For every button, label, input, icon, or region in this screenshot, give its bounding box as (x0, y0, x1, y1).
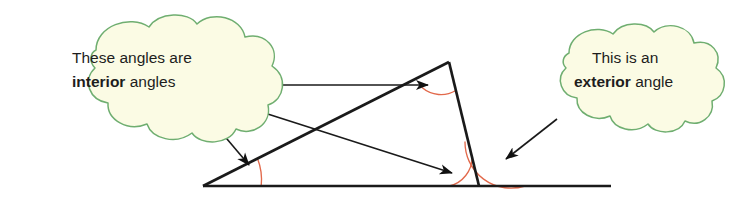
interior-angles-callout[interactable]: These angles are interior angles (72, 15, 283, 142)
leader-to-exterior-angle (506, 119, 557, 159)
interior-callout-line2: interior angles (72, 73, 176, 90)
leader-to-right-interior-angle (249, 108, 452, 173)
diagram-canvas: These angles are interior angles This is… (0, 0, 730, 204)
interior-callout-line2-rest: angles (125, 73, 175, 90)
triangle-side-right (449, 62, 479, 186)
exterior-callout-line2: exterior angle (574, 73, 673, 90)
interior-callout-line1: These angles are (72, 49, 192, 66)
interior-angle-arc-left (258, 159, 262, 186)
interior-angle-arc-apex (422, 88, 456, 95)
exterior-callout-keyword: exterior (574, 73, 631, 90)
exterior-callout-line2-rest: angle (631, 73, 673, 90)
interior-callout-keyword: interior (72, 73, 125, 90)
exterior-angle-callout[interactable]: This is an exterior angle (560, 24, 724, 132)
exterior-callout-line1: This is an (592, 49, 658, 66)
geometry-diagram: These angles are interior angles This is… (0, 0, 730, 204)
